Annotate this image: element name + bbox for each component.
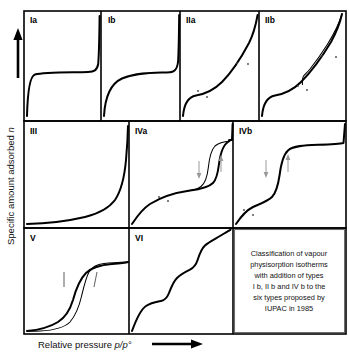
y-axis-arrow-icon	[13, 28, 22, 78]
x-axis-arrow-icon	[152, 339, 203, 348]
panel-iva-datapoint	[167, 200, 169, 202]
panel-ia: Ia	[27, 15, 100, 116]
panel-iii-adsorption-curve	[27, 126, 128, 224]
panel-v: V	[27, 233, 128, 331]
panel-v-label: V	[30, 233, 36, 243]
panel-iia-adsorption-curve	[183, 15, 258, 116]
panel-ivb-desorption-arrow-icon	[264, 160, 269, 178]
panel-ivb: IVb	[236, 124, 345, 224]
panel-iia-datapoint	[197, 90, 199, 92]
panel-iib-label: IIb	[265, 15, 275, 25]
panel-iib-datapoint	[321, 55, 323, 57]
panel-iib-adsorption-curve	[262, 14, 342, 116]
panel-vi-label: VI	[135, 233, 143, 243]
panel-ib-label: Ib	[108, 15, 116, 25]
panel-iva-adsorption-curve	[132, 124, 233, 224]
panel-iii-label: III	[30, 126, 37, 136]
panel-iib-datapoint	[297, 85, 299, 87]
row2-frame	[24, 121, 346, 228]
caption-line: IUPAC in 1985	[265, 304, 313, 313]
panel-ib: Ib	[104, 15, 179, 116]
panel-iia-datapoint	[247, 63, 249, 65]
panel-iib-datapoint	[306, 89, 308, 91]
panel-ivb-label: IVb	[239, 126, 252, 136]
panel-v-hysteresis-branch	[27, 262, 128, 331]
panel-ivb-datapoint	[243, 209, 245, 211]
y-axis-group: Specific amount adsorbed n	[5, 28, 23, 245]
panel-iva-datapoint	[158, 196, 160, 198]
panel-iib: IIb	[262, 14, 342, 116]
y-axis-label: Specific amount adsorbed n	[5, 127, 16, 245]
panel-vi: VI	[132, 230, 231, 331]
caption-line: physisorption isotherms	[250, 260, 328, 269]
panel-iia-label: IIa	[186, 15, 196, 25]
panel-v-adsorption-tick-icon	[94, 272, 97, 287]
isotherm-classification-figure: Specific amount adsorbed n Relative pres…	[0, 0, 349, 360]
x-axis-group: Relative pressure p/p°	[38, 339, 203, 350]
panel-vi-adsorption-curve	[132, 230, 231, 331]
caption-line: Classification of vapour	[251, 249, 328, 258]
panel-ib-adsorption-curve	[104, 15, 179, 116]
panel-iib-datapoint	[335, 56, 337, 58]
panel-ia-label: Ia	[30, 15, 37, 25]
panel-ivb-adsorption-curve	[236, 124, 345, 224]
panel-ia-adsorption-curve	[27, 16, 100, 116]
caption-line: I b, II b and IV b to the	[253, 282, 326, 291]
panel-v-adsorption-curve	[27, 262, 128, 331]
caption-line: with addition of types	[253, 271, 323, 280]
caption-line: six types proposed by	[253, 293, 325, 302]
panel-iia-datapoint	[206, 96, 208, 98]
panel-iva-desorption-arrow-icon	[197, 161, 202, 179]
panel-iva-label: IVa	[135, 126, 148, 136]
x-axis-label: Relative pressure p/p°	[38, 339, 132, 350]
panel-ivb-adsorption-arrow-icon	[286, 154, 291, 172]
panel-ivb-datapoint	[252, 214, 254, 216]
panel-iia-datapoint	[236, 62, 238, 64]
panel-iia: IIa	[183, 15, 258, 116]
panel-iii: III	[27, 126, 128, 224]
caption-box: Classification of vapour physisorption i…	[235, 230, 345, 333]
panel-iva: IVa	[132, 124, 233, 224]
